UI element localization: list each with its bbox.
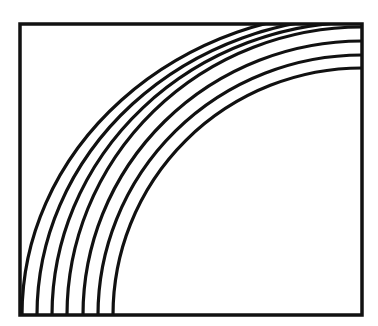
- arc-group: [22, 11, 362, 315]
- arc-5: [83, 41, 362, 315]
- arc-7: [113, 68, 362, 315]
- arc-3: [52, 22, 362, 315]
- arc-6: [98, 55, 362, 315]
- concentric-arcs-figure: [0, 0, 378, 326]
- arc-1: [22, 11, 362, 315]
- arc-4: [67, 27, 362, 315]
